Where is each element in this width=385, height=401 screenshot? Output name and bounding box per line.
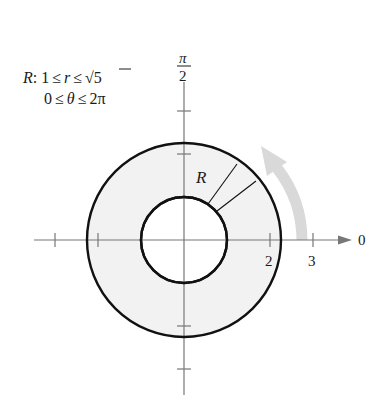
polar-axis-label-0: 0 <box>358 232 366 248</box>
vertical-axis-label-pi-over-2: π 2 <box>177 50 191 84</box>
tick-label-3: 3 <box>308 253 316 269</box>
svg-text:π: π <box>179 50 187 66</box>
region-definition: R:1≤r≤√5 0≤θ≤2π <box>22 69 131 107</box>
tick-label-2: 2 <box>265 253 273 269</box>
region-label-R: R <box>195 168 207 187</box>
polar-region-diagram: R 2 3 0 π 2 R:1≤r≤√5 0≤θ≤2π <box>0 0 385 401</box>
svg-text:0≤θ≤2π: 0≤θ≤2π <box>44 90 106 107</box>
svg-text:2: 2 <box>179 68 187 84</box>
svg-text:R:1≤r≤√5: R:1≤r≤√5 <box>22 69 102 86</box>
